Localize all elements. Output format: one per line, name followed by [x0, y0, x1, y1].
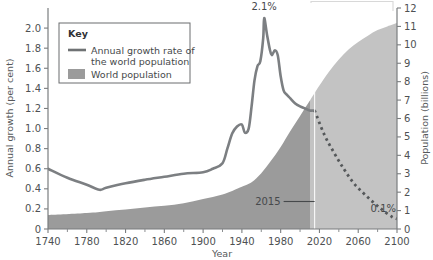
y-tick-label-left: 0.4: [25, 183, 41, 194]
x-tick-label: 1860: [152, 236, 177, 247]
y-tick-label-right: 7: [404, 95, 410, 106]
y-tick-label-right: 5: [404, 131, 410, 142]
top-bracket-decoration: [311, 2, 393, 12]
x-tick-label: 1900: [190, 236, 215, 247]
x-tick-label: 2100: [384, 236, 409, 247]
x-tick-label: 2020: [307, 236, 332, 247]
y-tick-label-left: 0: [35, 224, 41, 235]
legend-title: Key: [68, 28, 89, 39]
legend: Key Annual growth rate of the world popu…: [59, 23, 195, 83]
x-tick-label: 1940: [229, 236, 254, 247]
population-growth-figure: 00.20.40.60.81.01.21.41.61.82.0012345678…: [0, 0, 433, 260]
y-tick-label-right: 4: [404, 150, 410, 161]
final-growth-label: 0.1%: [371, 203, 396, 214]
legend-item-1-line1: World population: [91, 69, 172, 80]
y-tick-label-right: 1: [404, 205, 410, 216]
y-tick-label-right: 9: [404, 58, 410, 69]
peak-growth-label: 2.1%: [251, 1, 276, 12]
y-tick-label-right: 10: [404, 39, 417, 50]
y-axis-right-title: Population (billions): [419, 71, 430, 165]
y-tick-label-left: 1.4: [25, 83, 41, 94]
y-tick-label-left: 2.0: [25, 23, 41, 34]
x-tick-label: 1740: [35, 236, 60, 247]
y-tick-label-left: 0.2: [25, 203, 41, 214]
y-tick-label-right: 8: [404, 76, 410, 87]
y-tick-label-right: 0: [404, 224, 410, 235]
y-tick-label-right: 6: [404, 113, 410, 124]
divider-year-label: 2015: [255, 196, 280, 207]
y-tick-label-right: 12: [404, 3, 417, 14]
y-tick-label-right: 2: [404, 187, 410, 198]
y-tick-label-left: 1.8: [25, 43, 41, 54]
x-tick-label: 2060: [345, 236, 370, 247]
x-tick-label: 1780: [74, 236, 99, 247]
y-tick-label-right: 3: [404, 168, 410, 179]
y-tick-label-left: 1.0: [25, 123, 41, 134]
x-tick-label: 1980: [268, 236, 293, 247]
x-tick-label: 1820: [113, 236, 138, 247]
y-tick-label-left: 0.6: [25, 163, 41, 174]
x-axis-title: Year: [211, 248, 232, 259]
chart-canvas: 00.20.40.60.81.01.21.41.61.82.0012345678…: [0, 0, 433, 260]
y-tick-label-left: 0.8: [25, 143, 41, 154]
legend-item-0-line2: the world population: [91, 56, 189, 67]
y-tick-label-left: 1.6: [25, 63, 41, 74]
y-tick-label-right: 11: [404, 21, 417, 32]
y-tick-label-left: 1.2: [25, 103, 41, 114]
legend-item-0-line1: Annual growth rate of: [91, 45, 195, 56]
legend-box-swatch: [68, 69, 85, 79]
y-axis-left-title: Annual growth (per cent): [4, 58, 15, 177]
